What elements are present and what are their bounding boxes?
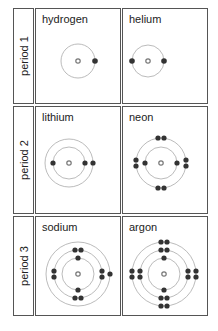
element-neon: neon [122, 106, 208, 214]
neon-atom-diagram [123, 107, 209, 215]
period-3-label: period 3 [18, 246, 30, 286]
element-helium: helium [122, 8, 208, 104]
period-3-label-box: period 3 [13, 216, 34, 316]
lithium-atom-diagram [36, 107, 122, 215]
element-hydrogen: hydrogen [35, 8, 121, 104]
argon-atom-diagram [123, 217, 209, 317]
element-argon: argon [122, 216, 208, 316]
period-1-label-box: period 1 [13, 8, 34, 104]
hydrogen-atom-diagram [36, 9, 122, 105]
element-sodium: sodium [35, 216, 121, 316]
helium-atom-diagram [123, 9, 209, 105]
element-lithium: lithium [35, 106, 121, 214]
period-2-label: period 2 [18, 140, 30, 180]
period-2-label-box: period 2 [13, 106, 34, 214]
sodium-atom-diagram [36, 217, 122, 317]
period-1-label: period 1 [18, 36, 30, 76]
